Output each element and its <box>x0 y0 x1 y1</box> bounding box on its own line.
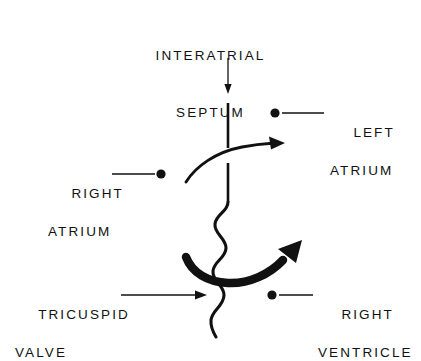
label-right-atrium-line1: RIGHT <box>71 186 124 201</box>
label-interatrial-septum-line1: INTERATRIAL <box>0 46 421 65</box>
label-tricuspid-valve-line2: VALVE <box>15 343 135 361</box>
label-right-atrium: RIGHT ATRIUM <box>48 165 152 279</box>
right-ventricle-leader <box>267 290 313 299</box>
tricuspid-valve-wavy-line <box>211 202 228 337</box>
lower-flow-arrow <box>186 240 302 283</box>
label-tricuspid-valve-line1: TRICUSPID <box>38 307 130 322</box>
label-tricuspid-valve: TRICUSPID VALVE <box>15 286 135 361</box>
label-left-atrium-line1: LEFT <box>353 125 394 140</box>
label-right-ventricle: RIGHT VENTRICLE <box>318 286 421 361</box>
label-right-ventricle-line1: RIGHT <box>341 307 394 322</box>
label-right-ventricle-line2: VENTRICLE <box>318 343 421 361</box>
label-left-atrium: LEFT ATRIUM <box>330 104 421 218</box>
label-right-atrium-line2: ATRIUM <box>48 222 152 241</box>
label-left-atrium-line2: ATRIUM <box>330 161 421 180</box>
